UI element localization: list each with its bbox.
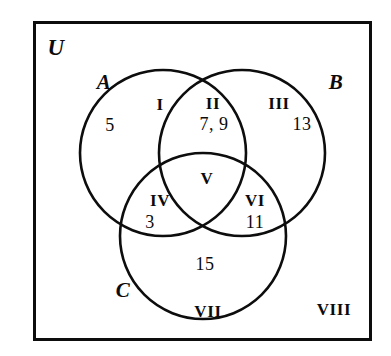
set-circle-b (159, 70, 325, 236)
region-label-iii: III (268, 95, 290, 112)
region-elements-iii: 13 (293, 115, 312, 133)
region-label-ii: II (206, 95, 220, 112)
venn-diagram-figure: U A B C I II III IV V VI VII VIII 7, 9 1… (0, 0, 391, 356)
region-label-viii: VIII (317, 301, 352, 318)
universe-label: U (48, 36, 65, 59)
region-label-v: V (201, 170, 214, 187)
region-elements-vii: 15 (196, 255, 215, 273)
region-elements-vi: 11 (246, 213, 264, 231)
region-elements-i: 5 (105, 116, 115, 134)
set-label-b: B (329, 72, 343, 93)
region-label-i: I (156, 96, 163, 113)
region-label-iv: IV (150, 192, 170, 209)
region-label-vi: VI (245, 192, 265, 209)
set-label-a: A (97, 72, 111, 93)
region-elements-ii: 7, 9 (200, 115, 229, 133)
region-elements-iv: 3 (145, 213, 155, 231)
set-label-c: C (116, 280, 130, 301)
region-label-vii: VII (194, 303, 221, 320)
